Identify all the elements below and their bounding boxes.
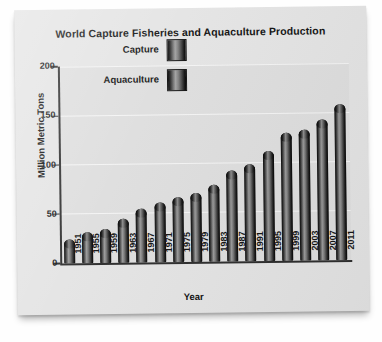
legend-swatch-capture xyxy=(167,39,187,61)
chart-title: World Capture Fisheries and Aquaculture … xyxy=(14,24,366,40)
x-tick-label-1979: 1979 xyxy=(200,232,210,266)
bar-cap xyxy=(226,171,237,180)
y-axis-ticks xyxy=(14,6,366,10)
bar-cap xyxy=(263,151,274,160)
bar-cap xyxy=(208,185,219,194)
x-axis-title: Year xyxy=(18,289,370,304)
x-tick-label-2007: 2007 xyxy=(328,230,338,264)
chart-legend: Capture Aquaculture xyxy=(14,6,366,10)
bar-cap xyxy=(154,202,165,211)
bar-cap xyxy=(317,119,328,128)
bar-cap xyxy=(280,133,291,142)
chart-figure: World Capture Fisheries and Aquaculture … xyxy=(14,6,370,315)
x-tick-label-2003: 2003 xyxy=(309,230,319,264)
x-tick-label-1987: 1987 xyxy=(237,231,247,265)
bar-cap xyxy=(136,208,147,217)
bar-cap xyxy=(245,165,256,174)
x-tick-label-1963: 1963 xyxy=(128,233,138,267)
gridline-200 xyxy=(58,63,349,68)
y-tick-label-50: 50 xyxy=(17,208,57,218)
x-tick-label-2011: 2011 xyxy=(346,230,356,264)
x-tick-label-1955: 1955 xyxy=(91,233,101,267)
x-axis-tick-labels: 1951195519591963196719711975197919831987… xyxy=(14,6,366,10)
x-tick-label-1967: 1967 xyxy=(146,232,156,266)
bar-cap xyxy=(335,104,346,113)
legend-label-capture: Capture xyxy=(67,43,159,55)
gridline-150 xyxy=(58,112,349,117)
bar-cap xyxy=(172,197,183,206)
x-tick-label-1959: 1959 xyxy=(109,233,119,267)
bar-cap xyxy=(118,218,129,227)
screenshot-canvas: World Capture Fisheries and Aquaculture … xyxy=(0,0,382,342)
x-tick-label-1975: 1975 xyxy=(182,232,192,266)
x-tick-label-1991: 1991 xyxy=(255,231,265,265)
legend-label-aquaculture: Aquaculture xyxy=(47,73,159,85)
x-tick-label-1971: 1971 xyxy=(164,232,174,266)
x-tick-label-1999: 1999 xyxy=(291,231,301,265)
y-tick-label-0: 0 xyxy=(17,258,57,268)
scanned-page-card: World Capture Fisheries and Aquaculture … xyxy=(14,6,370,315)
bar-cap xyxy=(299,130,310,139)
y-axis-tick-labels: 050100150200 xyxy=(14,6,366,10)
x-tick-label-1983: 1983 xyxy=(218,232,228,266)
legend-swatch-aquaculture xyxy=(167,69,187,91)
x-tick-label-1995: 1995 xyxy=(273,231,283,265)
x-tick-label-1951: 1951 xyxy=(73,233,83,267)
bar-cap xyxy=(190,193,201,202)
y-axis-title: Million Metric Tons xyxy=(34,65,47,205)
